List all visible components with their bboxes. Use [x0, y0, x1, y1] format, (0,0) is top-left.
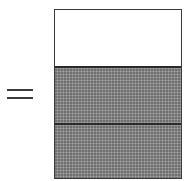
part-divider [55, 123, 181, 125]
fraction-part-unshaded [55, 10, 181, 66]
fraction-part-shaded [55, 123, 181, 178]
equals-sign-bottom-bar [7, 97, 33, 99]
fraction-bar [54, 9, 182, 179]
part-divider [55, 66, 181, 68]
fraction-part-shaded [55, 66, 181, 123]
equals-sign-top-bar [7, 89, 33, 91]
